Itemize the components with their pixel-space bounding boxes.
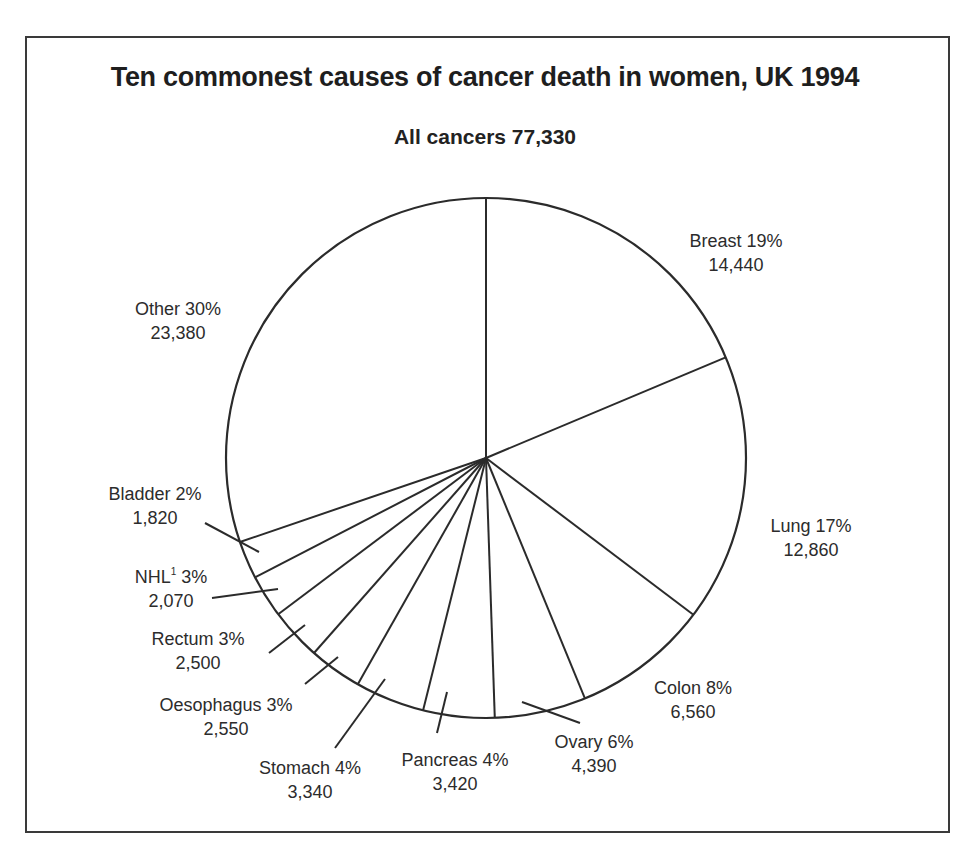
label-stomach-name: Stomach 4%	[259, 756, 361, 780]
slice-boundary-nhl	[278, 458, 486, 614]
label-bladder: Bladder 2% 1,820	[108, 482, 201, 530]
label-nhl-value: 2,070	[135, 589, 208, 613]
label-nhl: NHL1 3% 2,070	[135, 560, 208, 613]
label-ovary-value: 4,390	[554, 754, 633, 778]
leader-line-nhl	[212, 589, 278, 598]
label-bladder-name: Bladder 2%	[108, 482, 201, 506]
slice-boundary-colon	[486, 458, 693, 615]
slice-boundary-stomach	[423, 458, 486, 710]
label-nhl-name: NHL1 3%	[135, 560, 208, 589]
label-bladder-value: 1,820	[108, 506, 201, 530]
slice-boundary-lung	[486, 357, 726, 458]
leader-line-pancreas	[437, 692, 447, 733]
leader-line-ovary	[522, 702, 580, 723]
label-lung-name: Lung 17%	[770, 514, 851, 538]
slice-boundary-pancreas	[486, 458, 495, 718]
label-breast: Breast 19% 14,440	[689, 229, 782, 277]
pie-slices	[240, 198, 726, 718]
label-rectum-name: Rectum 3%	[151, 627, 244, 651]
label-other-value: 23,380	[135, 321, 221, 345]
label-breast-value: 14,440	[689, 253, 782, 277]
label-colon-name: Colon 8%	[654, 676, 732, 700]
label-oesophagus: Oesophagus 3% 2,550	[159, 693, 292, 741]
label-nhl-text: NHL	[135, 567, 171, 587]
label-stomach: Stomach 4% 3,340	[259, 756, 361, 804]
label-rectum-value: 2,500	[151, 651, 244, 675]
label-other: Other 30% 23,380	[135, 297, 221, 345]
label-oesophagus-name: Oesophagus 3%	[159, 693, 292, 717]
leader-line-oesophagus	[305, 657, 338, 684]
label-lung-value: 12,860	[770, 538, 851, 562]
label-pancreas-name: Pancreas 4%	[401, 748, 508, 772]
label-ovary-name: Ovary 6%	[554, 730, 633, 754]
label-rectum: Rectum 3% 2,500	[151, 627, 244, 675]
label-pancreas-value: 3,420	[401, 772, 508, 796]
pie-chart	[0, 0, 970, 857]
label-lung: Lung 17% 12,860	[770, 514, 851, 562]
label-other-name: Other 30%	[135, 297, 221, 321]
slice-boundary-ovary	[486, 458, 585, 698]
label-nhl-percent: 3%	[176, 567, 207, 587]
label-colon: Colon 8% 6,560	[654, 676, 732, 724]
label-ovary: Ovary 6% 4,390	[554, 730, 633, 778]
label-colon-value: 6,560	[654, 700, 732, 724]
label-pancreas: Pancreas 4% 3,420	[401, 748, 508, 796]
label-breast-name: Breast 19%	[689, 229, 782, 253]
label-oesophagus-value: 2,550	[159, 717, 292, 741]
leader-line-stomach	[335, 679, 385, 748]
label-stomach-value: 3,340	[259, 780, 361, 804]
